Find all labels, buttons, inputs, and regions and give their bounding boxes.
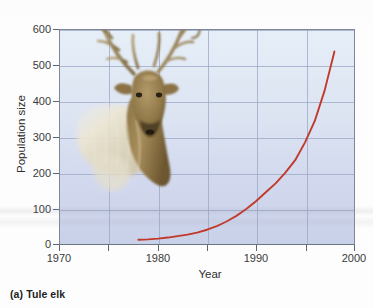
y-tick-label-600: 600: [11, 23, 51, 35]
figure-caption: (a) Tule elk: [10, 288, 65, 300]
gridline-y-300: [60, 138, 354, 139]
y-tick-label-100: 100: [11, 203, 51, 215]
x-axis-title: Year: [160, 268, 260, 280]
y-tick-400: [53, 101, 59, 102]
gridline-y-400: [60, 102, 354, 103]
x-tick-1995: [306, 245, 307, 251]
gridline-y-200: [60, 174, 354, 175]
y-tick-500: [53, 65, 59, 66]
figure-tule-elk: 600 500 400 300 200 100 0 1970 1980 1990…: [0, 0, 373, 308]
x-tick-1990: [256, 245, 257, 251]
gridline-x-1985: [208, 30, 209, 244]
x-tick-label-1970: 1970: [36, 252, 82, 264]
x-tick-1975: [108, 245, 109, 251]
x-tick-1985: [207, 245, 208, 251]
x-tick-label-2000: 2000: [331, 252, 373, 264]
gridline-y-500: [60, 66, 354, 67]
x-tick-label-1980: 1980: [135, 252, 181, 264]
x-tick-1980: [158, 245, 159, 251]
gridline-x-1975: [109, 30, 110, 244]
y-tick-600: [53, 29, 59, 30]
y-tick-200: [53, 173, 59, 174]
y-tick-label-500: 500: [11, 59, 51, 71]
gridline-x-1995: [307, 30, 308, 244]
gridline-x-1980: [159, 30, 160, 244]
y-axis-title: Population size: [15, 84, 27, 184]
x-tick-1970: [59, 245, 60, 251]
y-tick-100: [53, 209, 59, 210]
y-tick-300: [53, 137, 59, 138]
elk-photo: [72, 29, 212, 193]
population-curve: [60, 30, 354, 244]
x-tick-2000: [354, 245, 355, 251]
gridline-y-600: [60, 30, 354, 31]
x-tick-label-1990: 1990: [233, 252, 279, 264]
gridline-x-1990: [257, 30, 258, 244]
plot-area: [59, 29, 355, 245]
gridline-y-100: [60, 210, 354, 211]
y-tick-label-0: 0: [11, 238, 51, 250]
